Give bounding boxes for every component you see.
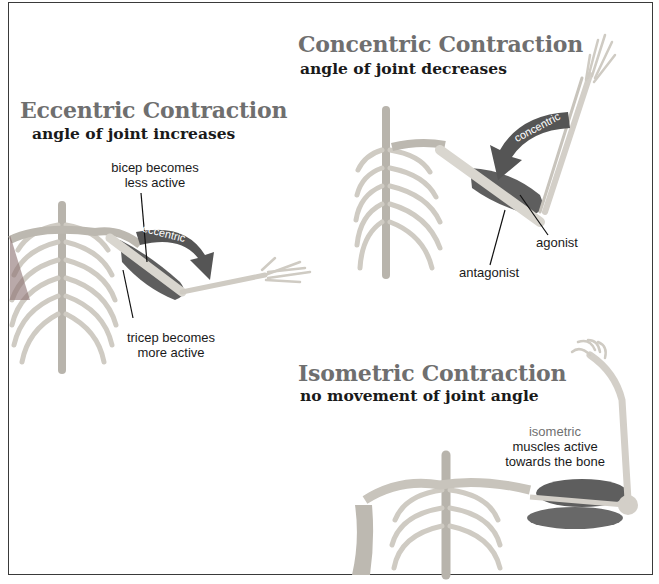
isometric-lower-muscle — [527, 507, 623, 529]
ribcage-illustration — [392, 455, 500, 575]
isometric-skeleton-illustration — [0, 0, 659, 584]
hand-illustration — [572, 340, 606, 358]
